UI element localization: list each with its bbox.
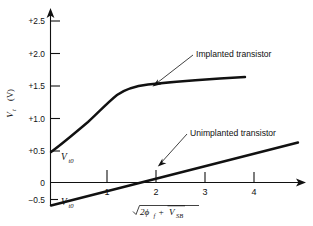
y-tick-label-0: 0: [40, 178, 45, 188]
implanted-vt0-sub: t0: [69, 157, 75, 164]
implanted-annotation-label: Implanted transistor: [196, 49, 272, 59]
y-axis-tick-labels: +2.5 +2.0 +1.5 +1.0 +0.5 0 −0.5: [28, 16, 45, 205]
y-axis-title-sub: t: [10, 109, 17, 111]
y-tick-label-2_0: +2.0: [28, 49, 45, 59]
unimplanted-vt0-label: V t0: [61, 197, 74, 209]
x-tick-label-4: 4: [251, 187, 256, 197]
y-axis-ticks: [51, 21, 61, 200]
y-axis-title-unit: (V): [5, 89, 15, 101]
threshold-voltage-body-effect-chart: +2.5 +2.0 +1.5 +1.0 +0.5 0 −0.5 1 2 3 4: [0, 0, 313, 226]
unimplanted-leader-line: [160, 134, 187, 164]
y-tick-label-2_5: +2.5: [28, 16, 45, 26]
x-tick-label-2: 2: [153, 187, 158, 197]
y-tick-label-0_5: +0.5: [28, 146, 45, 156]
x-axis-title-radicand-a-sub: f: [154, 212, 157, 219]
unimplanted-leader-arrowhead: [158, 159, 167, 167]
y-axis-title: V t (V): [5, 89, 17, 118]
unimplanted-annotation-label: Unimplanted transistor: [190, 128, 276, 138]
y-tick-label-neg-0_5: −0.5: [28, 195, 45, 205]
unimplanted-annotation-leader: [158, 134, 187, 166]
implanted-vt0-var: V: [61, 152, 68, 162]
y-tick-label-1_5: +1.5: [28, 81, 45, 91]
x-axis-title: 2ϕ f + V SB: [133, 206, 199, 219]
x-tick-label-3: 3: [202, 187, 207, 197]
x-axis-title-radicand-b-sub: SB: [176, 212, 183, 219]
x-axis-title-plus: +: [158, 207, 164, 217]
implanted-vt0-label: V t0: [61, 152, 74, 164]
x-axis-title-radicand-a: 2ϕ: [140, 207, 150, 217]
y-axis: [47, 8, 55, 206]
x-axis-title-radicand-b: V: [169, 207, 176, 217]
chart-figure: +2.5 +2.0 +1.5 +1.0 +0.5 0 −0.5 1 2 3 4: [0, 0, 313, 226]
unimplanted-vt0-sub: t0: [69, 202, 75, 209]
unimplanted-transistor-curve: [51, 143, 298, 206]
x-axis-tick-labels: 1 2 3 4: [104, 187, 256, 197]
implanted-transistor-curve: [51, 77, 245, 152]
y-tick-label-1_0: +1.0: [28, 114, 45, 124]
x-axis: [51, 179, 307, 187]
